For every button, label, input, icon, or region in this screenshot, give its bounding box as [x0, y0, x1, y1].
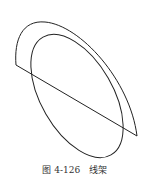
- inner-ellipse: [12, 19, 142, 173]
- outer-arc: [16, 22, 137, 136]
- wireframe-figure: [0, 0, 149, 184]
- figure-caption: 图 4-126 线架: [0, 163, 149, 176]
